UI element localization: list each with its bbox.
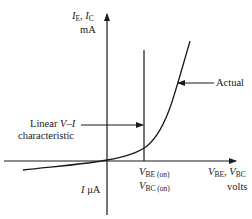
vbe-sub: BE (on) — [145, 170, 169, 179]
negative-current-label: I μA — [81, 184, 100, 196]
vbc-on-label: VBC (on) — [139, 180, 170, 195]
y-axis-unit: mA — [80, 24, 96, 36]
linear-text: Linear — [30, 118, 60, 129]
y-axis-label: IE, IC — [72, 10, 94, 25]
linear-var: V–I — [60, 118, 75, 129]
vbc-sub: BC (on) — [145, 184, 169, 193]
linear-label-line1: Linear V–I — [30, 118, 75, 130]
iv-characteristic-plot — [0, 0, 252, 219]
linear-label-line2: characteristic — [18, 130, 74, 142]
actual-label: Actual — [216, 77, 244, 89]
x-sub-bc: BC — [236, 170, 246, 179]
x-axis-unit: volts — [227, 181, 247, 193]
x-axis-label: VBE, VBC — [208, 166, 246, 181]
x-sub-be: BE — [214, 170, 224, 179]
y-sub-c: C — [89, 14, 94, 23]
neg-unit: μA — [85, 184, 101, 195]
vbe-on-label: VBE (on) — [139, 166, 169, 181]
